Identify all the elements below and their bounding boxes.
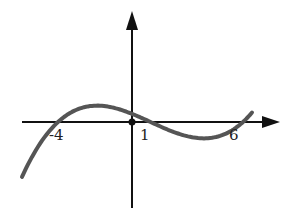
tick-label-1: 1 xyxy=(140,126,150,144)
y-axis-arrow-icon xyxy=(126,11,138,30)
origin-marker xyxy=(129,119,136,126)
cubic-function-graph: -4 1 6 xyxy=(0,0,295,215)
tick-label-6: 6 xyxy=(229,126,239,144)
x-axis-arrow-icon xyxy=(262,116,280,128)
tick-label-neg4: -4 xyxy=(49,126,64,144)
